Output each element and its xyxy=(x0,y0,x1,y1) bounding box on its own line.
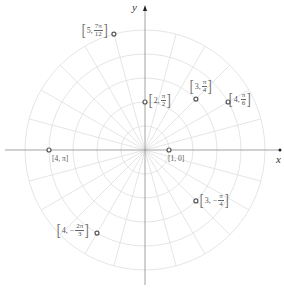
point-label-4-neg-2pi-3: [ 4, − 2π3 ] xyxy=(56,222,90,239)
point-label-3-pi-4: [ 3, π4 ] xyxy=(189,78,213,95)
point-label-4-pi-6: [ 4, π6 ] xyxy=(228,91,252,108)
grid-spoke xyxy=(145,150,261,181)
point-label-3-neg-pi-4: [ 3, − π4 ] xyxy=(199,192,229,209)
data-point xyxy=(95,231,99,235)
grid-spoke xyxy=(60,65,145,150)
data-point xyxy=(194,97,198,101)
point-label-2-pi-2: [ 2, π2 ] xyxy=(148,92,172,109)
data-point xyxy=(194,199,198,203)
data-point xyxy=(47,148,51,152)
data-point xyxy=(112,32,116,36)
grid-spoke xyxy=(41,90,145,150)
x-axis-label: x xyxy=(276,153,281,165)
grid-spoke xyxy=(85,150,145,254)
grid-spoke xyxy=(29,119,145,150)
point-label-5-7pi-12: [ 5, 7π12 ] xyxy=(81,22,108,39)
polar-plot xyxy=(0,0,284,289)
x-axis-end-dot-icon xyxy=(279,149,282,152)
grid-spoke xyxy=(29,150,145,181)
grid-spoke xyxy=(145,150,176,266)
grid-spoke xyxy=(145,119,261,150)
data-point xyxy=(143,100,147,104)
grid-spoke xyxy=(85,46,145,150)
point-label-4-pi: [4, π] xyxy=(52,155,68,163)
y-axis-label: y xyxy=(132,1,137,13)
y-axis-arrow-icon xyxy=(143,5,147,11)
grid-spoke xyxy=(114,34,145,150)
grid-spoke xyxy=(114,150,145,266)
point-label-1-0: [1, 0] xyxy=(168,155,184,163)
data-point xyxy=(167,148,171,152)
